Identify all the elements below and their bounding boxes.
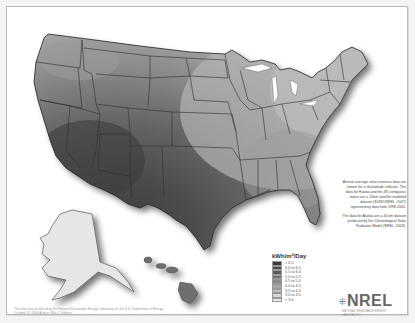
legend-item: < 3.0 [272, 298, 332, 303]
map-credit: This map was produced by the National Re… [14, 307, 214, 315]
solar-resource-map [0, 0, 415, 323]
credit-line-2: October 13, 2008 Author: Billy J. Robert… [14, 311, 214, 315]
description-alaska: The data for Alaska are a 40 km dataset … [340, 214, 406, 229]
description-contiguous: Annual average solar resource data are s… [340, 180, 406, 210]
legend-swatch [272, 298, 282, 303]
nrel-logo-text: NREL [347, 292, 393, 310]
legend-title: kWh/m²/Day [272, 253, 332, 259]
map-description: Annual average solar resource data are s… [340, 180, 406, 233]
legend: kWh/m²/Day > 6.5 6.0 to 6.5 5.5 to 6.0 5… [272, 253, 332, 302]
nrel-logo: ⁜ NREL [338, 292, 393, 310]
nrel-subtitle: NATIONAL RENEWABLE ENERGY LABORATORY [342, 309, 404, 317]
nrel-logo-icon: ⁜ [338, 296, 345, 307]
hawaii-map [144, 257, 198, 304]
alaska-map [40, 210, 134, 300]
